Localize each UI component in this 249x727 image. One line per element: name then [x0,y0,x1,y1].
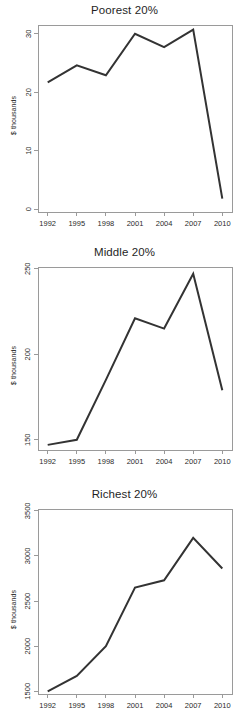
chart-panel-poorest: Poorest 20% $ thousands 0102030199219951… [0,0,249,242]
y-tick-label: 3500 [24,502,33,519]
x-tick-label: 1995 [68,701,85,710]
x-tick-label: 2007 [185,701,202,710]
x-tick-label: 1998 [98,457,115,466]
x-tick-label: 1992 [39,219,56,228]
x-tick-label: 2010 [214,219,231,228]
x-tick-label: 2010 [214,457,231,466]
x-tick-label: 1998 [98,701,115,710]
y-tick-label: 0 [24,207,33,211]
x-tick-label: 2010 [214,701,231,710]
x-tick-label: 1995 [68,457,85,466]
plot-area-middle: 1502002501992199519982001200420072010 [0,242,249,484]
y-tick-label: 2000 [24,638,33,655]
chart-panel-middle: Middle 20% $ thousands 15020025019921995… [0,242,249,484]
plot-area-poorest: 01020301992199519982001200420072010 [0,0,249,242]
x-tick-label: 2007 [185,219,202,228]
y-tick-label: 20 [24,88,33,96]
y-tick-label: 250 [24,262,33,275]
y-tick-label: 3000 [24,548,33,565]
y-tick-label: 200 [24,348,33,361]
x-tick-label: 1995 [68,219,85,228]
x-tick-label: 2004 [156,457,173,466]
x-tick-label: 1992 [39,457,56,466]
x-tick-label: 2001 [127,457,144,466]
x-tick-label: 2001 [127,701,144,710]
plot-area-richest: 1500200025003000350019921995199820012004… [0,484,249,727]
x-tick-label: 2001 [127,219,144,228]
y-tick-label: 1500 [24,683,33,700]
x-tick-label: 2007 [185,457,202,466]
y-tick-label: 10 [24,146,33,154]
x-tick-label: 1992 [39,701,56,710]
figure-container: Poorest 20% $ thousands 0102030199219951… [0,0,249,727]
data-series-line [48,30,223,199]
data-series-line [48,538,223,691]
x-tick-label: 1998 [98,219,115,228]
y-tick-label: 30 [24,30,33,38]
data-series-line [48,274,223,445]
y-tick-label: 2500 [24,593,33,610]
x-tick-label: 2004 [156,701,173,710]
y-tick-label: 150 [24,433,33,446]
x-tick-label: 2004 [156,219,173,228]
chart-panel-richest: Richest 20% $ thousands 1500200025003000… [0,484,249,727]
